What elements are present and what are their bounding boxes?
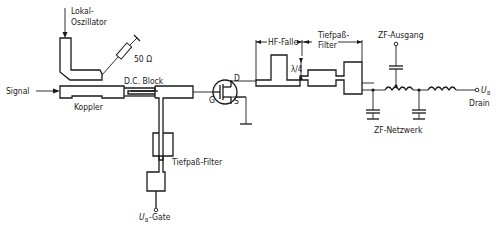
- if-output-label: ZF-Ausgang: [378, 30, 424, 40]
- local-oscillator-label-line2: Oszillator: [71, 17, 108, 27]
- drain-pin-label: D: [234, 73, 240, 83]
- ub-drain-subscript: B: [487, 90, 491, 96]
- hf-trap-and-lowpass-stripline: [254, 55, 374, 94]
- lowpass-drain-label-line2: Filter: [318, 40, 338, 50]
- hf-trap-label: HF-Falle: [268, 37, 298, 47]
- ub-gate-suffix: -Gate: [149, 212, 171, 222]
- source-pin-label: S: [234, 96, 239, 106]
- lambda-quarter-label: λ/4: [291, 65, 303, 74]
- drain-supply-label: Drain: [469, 98, 490, 108]
- signal-label: Signal: [6, 86, 30, 96]
- local-oscillator-input-arrow: [63, 8, 68, 38]
- fet-transistor: [193, 80, 254, 124]
- lowpass-drain-label-line1: Tiefpaß-: [317, 30, 349, 40]
- signal-input-arrow: [36, 89, 60, 94]
- if-network-label: ZF-Netzwerk: [374, 125, 423, 135]
- if-network: [362, 42, 479, 119]
- fet-mixer-diagram: Lokal- Oszillator 50 Ω Signal Koppler D.…: [0, 0, 498, 227]
- coupler-stripline: [60, 86, 124, 98]
- dc-block-label: D.C. Block: [124, 76, 164, 86]
- gate-pin-label: G: [209, 95, 215, 105]
- resistor-value-label: 50 Ω: [134, 54, 152, 64]
- gate-tee-stripline: [155, 86, 193, 160]
- coupler-label: Koppler: [74, 102, 104, 112]
- dc-block: [124, 88, 158, 96]
- gate-lowpass-filter: [147, 133, 173, 212]
- ub-drain-label: U B: [481, 85, 491, 96]
- ub-gate-label: U B -Gate: [139, 212, 171, 223]
- local-oscillator-stripline: [60, 38, 102, 80]
- gate-lowpass-label: Tiefpaß-Filter: [171, 157, 223, 167]
- local-oscillator-label-line1: Lokal-: [71, 6, 94, 16]
